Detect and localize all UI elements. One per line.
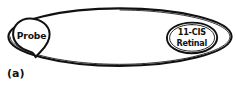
retinal-label-line-2: Retinal [176, 38, 207, 48]
figure-drawing: Probe 11-CIS Retinal [0, 0, 236, 89]
panel-caption: (a) [7, 68, 24, 79]
retinal-marker: 11-CIS Retinal [167, 23, 217, 54]
retinal-label-line-1: 11-CIS [178, 27, 206, 37]
figure-panel-a: Probe 11-CIS Retinal (a) [0, 0, 236, 89]
probe-label: Probe [17, 30, 46, 41]
probe-marker: Probe [13, 18, 50, 57]
